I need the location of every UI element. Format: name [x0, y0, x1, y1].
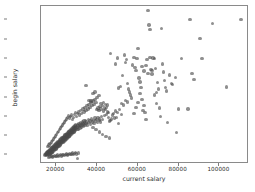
data-point — [150, 72, 153, 75]
x-axis-label: current salary — [122, 175, 165, 182]
data-point — [109, 52, 112, 55]
y-tick-mark — [4, 115, 7, 116]
x-tick-label: 80000 — [168, 166, 186, 172]
data-point — [134, 106, 137, 109]
x-tick-label: 100000 — [207, 166, 229, 172]
data-point — [122, 103, 125, 106]
data-point — [180, 57, 183, 60]
data-point — [143, 111, 146, 114]
data-point — [158, 106, 161, 109]
data-point — [166, 121, 169, 124]
data-point — [190, 72, 193, 75]
data-point — [106, 103, 109, 106]
data-point — [153, 93, 156, 96]
x-tick-label: 20000 — [46, 166, 64, 172]
y-tick-mark — [4, 96, 7, 97]
y-tick-mark — [4, 135, 7, 136]
data-point — [146, 9, 149, 12]
y-tick-mark — [4, 77, 7, 78]
data-point — [175, 131, 178, 134]
data-point — [144, 64, 147, 67]
data-point — [140, 98, 143, 101]
data-point — [153, 57, 156, 60]
y-tick-mark — [4, 38, 7, 39]
data-point — [126, 82, 129, 85]
data-point — [130, 96, 133, 99]
data-point — [77, 151, 80, 154]
data-point — [142, 104, 145, 107]
data-point — [121, 74, 124, 77]
scatter-plot-area[interactable] — [40, 5, 248, 163]
data-point — [162, 70, 165, 73]
data-point — [198, 37, 201, 40]
data-point — [132, 112, 135, 115]
x-tick-mark — [178, 163, 179, 166]
data-point — [138, 92, 141, 95]
data-point — [161, 62, 164, 65]
data-point — [117, 122, 120, 125]
data-point — [144, 118, 147, 121]
data-point — [97, 94, 100, 97]
x-tick-mark — [55, 163, 56, 166]
data-point — [140, 65, 143, 68]
data-point — [154, 67, 157, 70]
y-tick-mark — [4, 154, 7, 155]
data-point — [101, 118, 104, 121]
data-point — [124, 61, 127, 64]
data-point — [174, 76, 177, 79]
data-point — [225, 85, 228, 88]
data-point — [93, 90, 96, 93]
data-point — [188, 18, 191, 21]
data-point — [186, 107, 189, 110]
data-point — [138, 80, 141, 83]
figure-canvas: 1000015000200002500030000350004000045000… — [0, 0, 255, 192]
data-point — [108, 136, 111, 139]
data-point — [76, 157, 79, 160]
data-point — [104, 135, 107, 138]
data-point — [157, 87, 160, 90]
x-tick-mark — [96, 163, 97, 166]
data-point — [165, 89, 168, 92]
data-point — [146, 72, 149, 75]
y-axis-label: begin salary — [11, 58, 18, 118]
data-point — [163, 79, 166, 82]
data-point — [120, 113, 123, 116]
data-point — [119, 85, 122, 88]
data-point — [135, 57, 138, 60]
data-point — [103, 114, 106, 117]
data-point — [94, 101, 97, 104]
data-point — [84, 84, 87, 87]
data-point — [123, 53, 126, 56]
data-point — [200, 57, 203, 60]
x-tick-label: 40000 — [87, 166, 105, 172]
data-point — [113, 116, 116, 119]
data-point — [114, 62, 117, 65]
x-tick-label: 60000 — [128, 166, 146, 172]
data-point — [211, 22, 214, 25]
data-point — [159, 115, 162, 118]
data-point — [118, 108, 121, 111]
data-point — [116, 111, 119, 114]
data-point — [147, 23, 150, 26]
data-point — [126, 100, 129, 103]
data-point — [136, 47, 139, 50]
data-point — [91, 126, 94, 129]
data-point — [168, 73, 171, 76]
data-point — [155, 102, 158, 105]
data-point — [160, 27, 163, 30]
y-tick-mark — [4, 58, 7, 59]
data-point — [148, 56, 151, 59]
data-point — [148, 28, 151, 31]
data-point — [177, 107, 180, 110]
data-point — [109, 119, 112, 122]
data-point — [136, 101, 139, 104]
data-point — [134, 69, 137, 72]
data-point — [142, 69, 145, 72]
data-point — [139, 86, 142, 89]
data-point — [239, 18, 242, 21]
data-point — [156, 81, 159, 84]
data-point — [171, 83, 174, 86]
x-tick-mark — [137, 163, 138, 166]
data-point — [192, 78, 195, 81]
data-point — [116, 56, 119, 59]
